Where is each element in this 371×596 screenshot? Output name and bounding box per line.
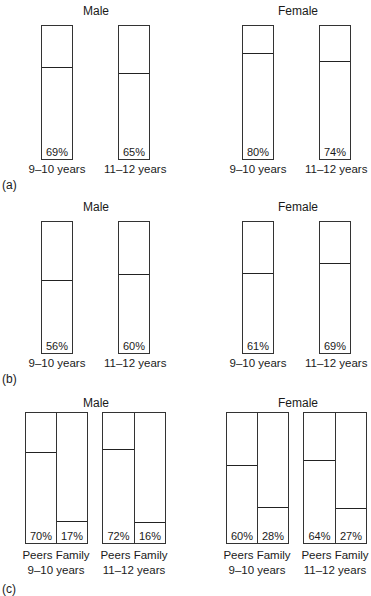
value-line [119,274,149,275]
bar-value-label: 69% [320,340,350,352]
value-line [227,465,257,466]
value-line [42,67,72,68]
value-line [320,61,350,62]
bar-family: 17% [56,412,88,544]
bar-value-label: 72% [103,530,134,542]
bar: 69% [41,25,73,160]
bar-value-label: 64% [304,530,335,542]
category-label: 9–10 years [27,357,87,369]
sub-category-label: Peers Family [217,549,297,561]
bar-value-label: 69% [42,146,72,158]
bar-value-label: 27% [336,530,366,542]
category-label: 9–10 years [27,163,87,175]
category-label: 9–10 years [16,564,96,576]
bar: 80% [242,25,274,160]
value-line [57,521,87,522]
value-line [336,508,366,509]
bar-value-label: 16% [135,530,165,542]
category-label: 11–12 years [94,564,174,576]
value-line [258,507,288,508]
bar-value-label: 60% [227,530,257,542]
bar-peers: 64% [303,412,336,544]
bar-value-label: 65% [119,146,149,158]
group-title-male: Male [36,200,156,214]
bar-value-label: 61% [243,340,273,352]
sub-category-label: Peers Family [295,549,371,561]
bar-peers: 70% [25,412,57,544]
bar-peers: 60% [226,412,258,544]
bar-value-label: 56% [42,340,72,352]
group-title-male: Male [36,396,156,410]
value-line [103,449,134,450]
bar-value-label: 74% [320,146,350,158]
bar: 56% [41,221,73,354]
bar: 60% [118,221,150,354]
value-line [135,522,165,523]
bar: 61% [242,221,274,354]
category-label: 9–10 years [228,163,288,175]
bar-value-label: 80% [243,146,273,158]
bar-value-label: 17% [57,530,87,542]
group-title-male: Male [36,4,156,18]
value-line [26,452,56,453]
sub-category-label: Peers Family [94,549,174,561]
category-label: 9–10 years [228,357,288,369]
bar: 65% [118,25,150,160]
value-line [320,263,350,264]
panel-label-c: (c) [2,582,16,596]
category-label: 11–12 years [104,163,164,175]
category-label: 11–12 years [305,163,365,175]
category-label: 11–12 years [104,357,164,369]
group-title-female: Female [238,396,358,410]
bar-value-label: 60% [119,340,149,352]
group-title-female: Female [238,4,358,18]
bar-value-label: 70% [26,530,56,542]
value-line [243,273,273,274]
category-label: 11–12 years [305,357,365,369]
bar-family: 27% [335,412,367,544]
sub-category-label: Peers Family [16,549,96,561]
bar-peers: 72% [102,412,135,544]
bar: 74% [319,25,351,160]
bar: 69% [319,221,351,354]
value-line [243,53,273,54]
panel-label-b: (b) [2,372,17,386]
category-label: 11–12 years [295,564,371,576]
bar-family: 16% [134,412,166,544]
panel-label-a: (a) [2,178,17,192]
category-label: 9–10 years [217,564,297,576]
bar-value-label: 28% [258,530,288,542]
bar-family: 28% [257,412,289,544]
group-title-female: Female [238,200,358,214]
value-line [42,280,72,281]
value-line [119,73,149,74]
value-line [304,460,335,461]
